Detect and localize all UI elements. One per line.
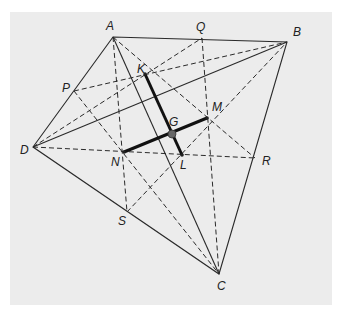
label-R: R bbox=[262, 154, 271, 168]
label-N: N bbox=[111, 155, 120, 169]
segment-A-R bbox=[113, 37, 255, 158]
label-G: G bbox=[169, 115, 178, 129]
quadrilateral-ABCD bbox=[33, 37, 287, 274]
point-labels: A Q B K P M G D N L R S C bbox=[20, 19, 301, 293]
label-K: K bbox=[137, 62, 146, 76]
point-L-marker bbox=[180, 153, 184, 157]
label-Q: Q bbox=[196, 20, 205, 34]
label-A: A bbox=[105, 19, 114, 33]
point-markers bbox=[122, 72, 209, 157]
label-B: B bbox=[293, 25, 301, 39]
point-M-marker bbox=[205, 116, 209, 120]
label-M: M bbox=[212, 100, 222, 114]
segment-D-R bbox=[33, 147, 255, 158]
point-G-marker bbox=[168, 130, 176, 138]
dashed-lines bbox=[33, 37, 287, 274]
segment-P-C bbox=[74, 91, 219, 274]
segment-P-B bbox=[74, 42, 287, 91]
bimedians bbox=[124, 74, 207, 155]
segment-S-B bbox=[127, 42, 287, 212]
quadrilateral-diagram: A Q B K P M G D N L R S C bbox=[0, 0, 346, 319]
label-C: C bbox=[217, 279, 226, 293]
label-P: P bbox=[62, 81, 70, 95]
segment-N-M bbox=[124, 118, 207, 152]
solid-lines bbox=[33, 37, 287, 274]
label-L: L bbox=[180, 158, 187, 172]
label-S: S bbox=[118, 214, 126, 228]
label-D: D bbox=[20, 143, 29, 157]
point-N-marker bbox=[122, 150, 126, 154]
